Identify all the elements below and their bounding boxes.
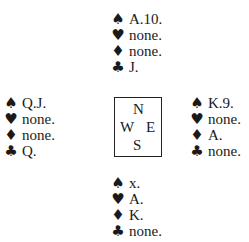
- west-spades-cards: Q.J.: [22, 95, 46, 111]
- spade-icon: ♠: [110, 175, 126, 191]
- west-diamonds-cards: none.: [22, 127, 55, 143]
- diamond-icon: ♦: [3, 127, 19, 143]
- spade-icon: ♠: [110, 11, 126, 27]
- north-hearts-cards: none.: [129, 27, 162, 43]
- heart-icon: ♥: [110, 191, 126, 207]
- heart-icon: ♥: [3, 111, 19, 127]
- compass-east-label: E: [146, 120, 155, 135]
- compass-box: N W E S: [114, 97, 162, 157]
- spade-icon: ♠: [189, 95, 205, 111]
- south-spades-cards: x.: [129, 175, 140, 191]
- diamond-icon: ♦: [110, 43, 126, 59]
- club-icon: ♣: [189, 143, 205, 159]
- club-icon: ♣: [3, 143, 19, 159]
- compass-north-label: N: [133, 102, 144, 117]
- club-icon: ♣: [110, 223, 126, 239]
- south-clubs-cards: none.: [129, 223, 162, 239]
- diamond-icon: ♦: [189, 127, 205, 143]
- north-clubs-cards: J.: [129, 59, 139, 75]
- east-diamonds-cards: A.: [208, 127, 223, 143]
- heart-icon: ♥: [110, 27, 126, 43]
- west-clubs-cards: Q.: [22, 143, 37, 159]
- heart-icon: ♥: [189, 111, 205, 127]
- south-diamonds-cards: K.: [129, 207, 144, 223]
- diamond-icon: ♦: [110, 207, 126, 223]
- spade-icon: ♠: [3, 95, 19, 111]
- compass-south-label: S: [133, 138, 141, 153]
- east-hearts-cards: none.: [208, 111, 241, 127]
- east-spades-cards: K.9.: [208, 95, 234, 111]
- east-clubs-cards: none.: [208, 143, 241, 159]
- north-spades-cards: A.10.: [129, 11, 162, 27]
- club-icon: ♣: [110, 59, 126, 75]
- north-diamonds-cards: none.: [129, 43, 162, 59]
- west-hearts-cards: none.: [22, 111, 55, 127]
- compass-west-label: W: [120, 120, 134, 135]
- south-hearts-cards: A.: [129, 191, 144, 207]
